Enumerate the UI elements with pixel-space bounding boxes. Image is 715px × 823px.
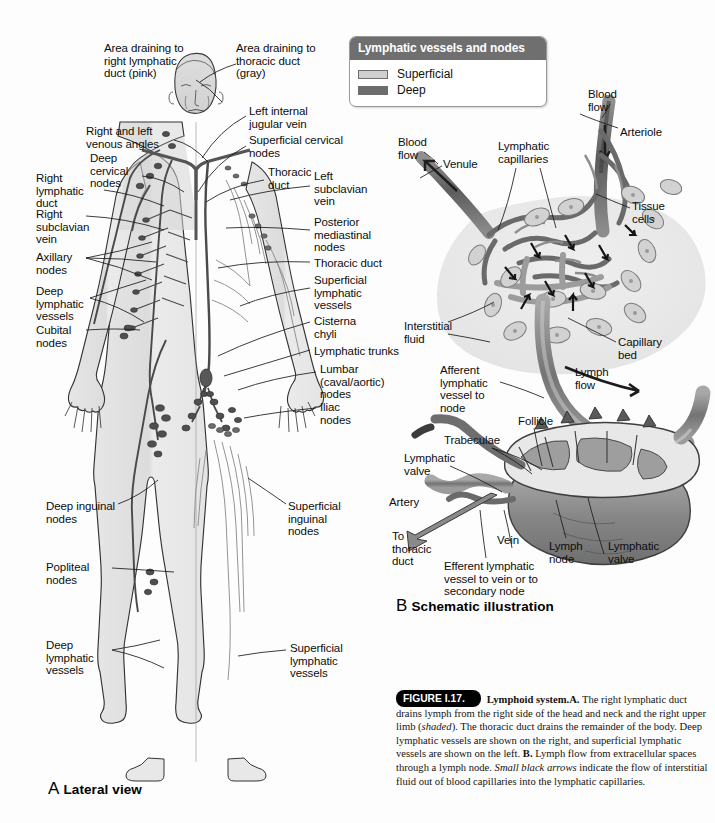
legend-item-superficial: Superficial (358, 67, 538, 81)
lymphatic-valve-outflow (675, 393, 703, 443)
label-follicle: Follicle (518, 415, 553, 428)
label-arteriole: Arteriole (620, 126, 662, 139)
panel-b-letter: B (396, 596, 411, 615)
panel-b-name: Schematic illustration (411, 599, 554, 614)
label-area-right-duct: Area draining to right lymphatic duct (p… (104, 42, 184, 80)
label-tissue-cells: Tissue cells (632, 200, 665, 225)
panel-a-name: Lateral view (63, 782, 142, 797)
label-popliteal-nodes: Popliteal nodes (46, 561, 89, 586)
legend-swatch-superficial (358, 70, 388, 79)
panel-a-tag: ALateral view (48, 779, 142, 799)
label-venule: Venule (443, 158, 478, 171)
label-superficial-lymphatic-vessels-upper: Superficial lymphatic vessels (314, 274, 367, 312)
label-artery: Artery (389, 496, 419, 509)
label-interstitial-fluid: Interstitial fluid (404, 320, 452, 345)
legend-label-superficial: Superficial (397, 67, 453, 81)
label-lymph-node: Lymph node (549, 540, 583, 565)
label-lymphatic-valve-right: Lymphatic valve (608, 540, 659, 565)
label-deep-cervical-nodes: Deep cervical nodes (90, 152, 128, 190)
legend-title: Lymphatic vessels and nodes (350, 37, 546, 60)
label-right-lymphatic-duct: Right lymphatic duct (36, 172, 84, 210)
label-lymphatic-trunks: Lymphatic trunks (314, 345, 399, 358)
panel-b-tag: BSchematic illustration (396, 596, 554, 616)
label-left-internal-jugular-vein: Left internal jugular vein (249, 105, 308, 130)
caption-italic-shaded: shaded (422, 721, 452, 732)
label-superficial-cervical-nodes: Superficial cervical nodes (249, 134, 343, 159)
label-superficial-inguinal-nodes: Superficial inguinal nodes (288, 500, 341, 538)
label-lymphatic-capillaries: Lymphatic capillaries (498, 140, 549, 165)
legend-item-deep: Deep (358, 83, 538, 97)
label-vein: Vein (497, 534, 519, 547)
label-lumbar-nodes: Lumbar (caval/aortic) nodes (320, 363, 384, 401)
panel-a-letter: A (48, 779, 63, 798)
panel-b-artwork (385, 95, 715, 655)
label-capillary-bed: Capillary bed (618, 336, 662, 361)
legend-box: Lymphatic vessels and nodes Superficial … (349, 36, 547, 107)
label-area-thoracic-duct: Area draining to thoracic duct (gray) (236, 42, 316, 80)
label-venous-angles: Right and left venous angles (86, 125, 159, 150)
thoracic-duct-path (203, 162, 210, 396)
label-deep-inguinal-nodes: Deep inguinal nodes (46, 500, 115, 525)
label-left-subclavian-vein: Left subclavian vein (314, 170, 367, 208)
label-posterior-mediastinal-nodes: Posterior mediastinal nodes (314, 216, 371, 254)
legend-swatch-deep (358, 86, 388, 95)
caption-title: Lymphoid system. (487, 694, 569, 705)
label-deep-lymphatic-vessels-lower: Deep lymphatic vessels (46, 639, 94, 677)
label-axillary-nodes: Axillary nodes (36, 251, 72, 276)
lymph-node-structure (505, 407, 700, 565)
caption-italic-arrows: Small black arrows (495, 762, 577, 773)
caption-b-marker: B. (523, 748, 533, 759)
legend-label-deep: Deep (397, 83, 426, 97)
label-right-subclavian-vein: Right subclavian vein (36, 208, 89, 246)
label-thoracic-duct-upper: Thoracic duct (268, 166, 311, 191)
legend-items: Superficial Deep (350, 60, 546, 106)
label-superficial-lymphatic-vessels-lower: Superficial lymphatic vessels (290, 642, 343, 680)
label-cubital-nodes: Cubital nodes (36, 324, 71, 349)
cisterna-chyli-shape (200, 369, 212, 387)
figure-page: Lymphatic vessels and nodes Superficial … (0, 0, 715, 823)
label-afferent-lymphatic-vessel: Afferent lymphatic vessel to node (440, 364, 488, 414)
label-trabeculae: Trabeculae (444, 434, 500, 447)
caption-a-marker: A. (569, 694, 579, 705)
label-lymphatic-valve-left: Lymphatic valve (404, 452, 455, 477)
label-lymph-flow: Lymph flow (575, 366, 609, 391)
figure-number: FIGURE I.17. (396, 690, 481, 707)
label-thoracic-duct: Thoracic duct (314, 257, 382, 270)
label-iliac-nodes: Iliac nodes (320, 401, 351, 426)
label-deep-lymphatic-vessels-upper: Deep lymphatic vessels (36, 285, 84, 323)
label-blood-flow-right: Blood flow (588, 88, 617, 113)
label-to-thoracic-duct: To thoracic duct (392, 530, 431, 568)
label-cisterna-chyli: Cisterna chyli (314, 315, 356, 340)
figure-caption: FIGURE I.17.Lymphoid system.A. The right… (396, 690, 708, 788)
label-efferent-lymphatic-vessel: Efferent lymphatic vessel to vein or to … (444, 560, 538, 598)
label-blood-flow-left: Blood flow (398, 136, 427, 161)
